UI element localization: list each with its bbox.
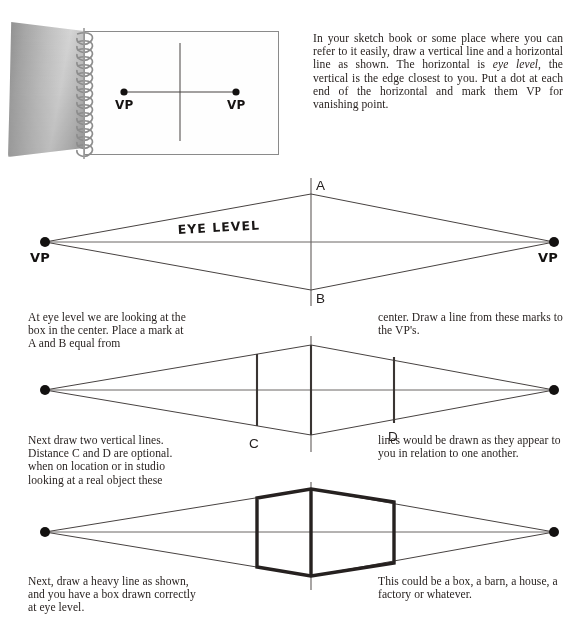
- eye-level-label: EYE LEVEL: [177, 217, 260, 237]
- vp-left-dot-1: [40, 237, 50, 247]
- vp-right-label-1: VP: [538, 250, 558, 265]
- convergence-line-b-left: [45, 242, 311, 290]
- diagram-eye-level: VP VP A B EYE LEVEL: [0, 176, 574, 308]
- notebook-vp-left-label: VP: [115, 98, 133, 112]
- notebook-vp-right-dot: [232, 88, 239, 95]
- convergence-line-a-right: [311, 194, 554, 242]
- intro-text-emphasis: eye level: [493, 58, 538, 71]
- vp-left-dot-2: [40, 385, 50, 395]
- point-c-label: C: [249, 436, 259, 451]
- convergence-line-top-right-2: [311, 345, 554, 390]
- point-b-label: B: [316, 291, 325, 306]
- vp-right-dot-2: [549, 385, 559, 395]
- point-a-label: A: [316, 178, 325, 193]
- notebook-vp-right-label: VP: [227, 98, 245, 112]
- vp-left-dot-3: [40, 527, 50, 537]
- convergence-line-b-right: [311, 242, 554, 290]
- step3-left-caption: Next, draw a heavy line as shown, and yo…: [28, 575, 200, 615]
- convergence-line-bottom-left-2: [45, 390, 311, 435]
- step1-right-caption: center. Draw a line from these marks to …: [378, 311, 568, 337]
- vp-left-label-1: VP: [30, 250, 50, 265]
- notebook-illustration: VP VP: [8, 14, 286, 166]
- step3-right-caption: This could be a box, a barn, a house, a …: [378, 575, 568, 601]
- diagram-heavy-box: [0, 482, 574, 590]
- intro-paragraph: In your sketch book or some place where …: [313, 32, 563, 111]
- step2-right-caption: lines would be drawn as they appear to y…: [378, 434, 568, 460]
- instruction-plate: VP VP In your sketch book or some place …: [0, 0, 574, 638]
- notebook-crosshair-sketch: VP VP: [84, 31, 277, 153]
- vp-right-dot-1: [549, 237, 559, 247]
- vp-right-dot-3: [549, 527, 559, 537]
- convergence-line-bottom-right-2: [311, 390, 554, 435]
- convergence-line-top-left-2: [45, 345, 311, 390]
- notebook-vp-left-dot: [120, 88, 127, 95]
- step2-left-caption: Next draw two vertical lines. Distance C…: [28, 434, 196, 487]
